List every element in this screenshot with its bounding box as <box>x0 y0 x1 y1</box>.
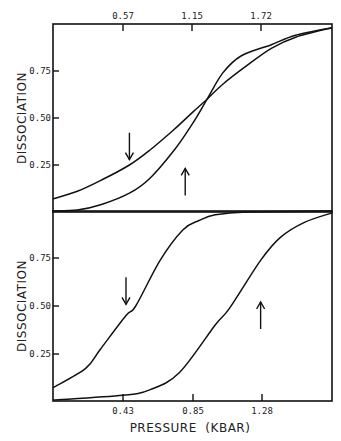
bottom-xtick-label-3: 1.28 <box>251 406 273 416</box>
top-y-axis-title: DISSOCIATION <box>15 72 29 164</box>
top-xtick-label-2: 1.15 <box>181 11 203 21</box>
bottom-curve-down <box>53 211 332 388</box>
top-ytick-label-075: 0.75 <box>29 66 51 76</box>
top-curve-down <box>53 28 332 199</box>
bottom-arrow-down-icon <box>122 277 130 304</box>
data-curves <box>53 28 332 400</box>
top-arrow-down-icon <box>125 133 133 160</box>
bottom-ytick-label-050: 0.50 <box>29 301 51 311</box>
bottom-panel-frame <box>53 211 332 401</box>
bottom-xtick-label-1: 0.43 <box>112 406 134 416</box>
top-ytick-label-025: 0.25 <box>29 160 51 170</box>
bottom-x-axis: 0.43 0.85 1.28 PRESSURE (KBAR) <box>112 394 273 435</box>
bottom-y-axis-title: DISSOCIATION <box>15 260 29 352</box>
arrow-annotations <box>122 133 265 329</box>
x-axis-title: PRESSURE (KBAR) <box>130 421 251 435</box>
bottom-curve-up <box>53 213 332 400</box>
bottom-arrow-up-icon <box>257 302 265 329</box>
top-xtick-label-1: 0.57 <box>112 11 134 21</box>
top-xtick-label-3: 1.72 <box>250 11 272 21</box>
chart-canvas: 0.57 1.15 1.72 0.75 0.50 0.25 DISSOCIATI… <box>0 0 341 441</box>
bottom-ytick-label-025: 0.25 <box>29 349 51 359</box>
top-x-axis: 0.57 1.15 1.72 <box>112 11 272 31</box>
bottom-ytick-label-075: 0.75 <box>29 253 51 263</box>
top-arrow-up-icon <box>181 168 189 195</box>
bottom-xtick-label-2: 0.85 <box>182 406 204 416</box>
top-ytick-label-050: 0.50 <box>29 113 51 123</box>
